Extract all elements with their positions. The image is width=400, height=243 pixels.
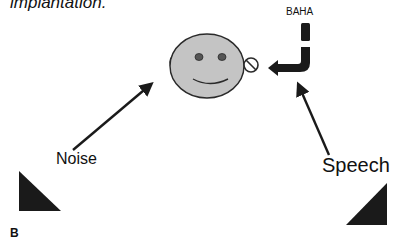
noise-label: Noise bbox=[56, 150, 97, 168]
noise-source-icon bbox=[19, 171, 61, 211]
speech-source-icon bbox=[346, 183, 387, 225]
figure-canvas: implantation. BAHA Noise Speech B bbox=[0, 0, 400, 243]
baha-device-icon bbox=[268, 23, 310, 76]
baha-label: BAHA bbox=[286, 6, 313, 17]
smiley-face-icon bbox=[170, 34, 244, 98]
speech-arrow-icon bbox=[299, 86, 329, 155]
speech-label: Speech bbox=[322, 154, 390, 177]
noise-arrow-icon bbox=[73, 85, 150, 150]
baha-implant-icon bbox=[244, 58, 258, 72]
figure-caption: implantation. bbox=[10, 0, 106, 13]
panel-label: B bbox=[10, 226, 19, 240]
diagram-graphics bbox=[0, 0, 400, 243]
